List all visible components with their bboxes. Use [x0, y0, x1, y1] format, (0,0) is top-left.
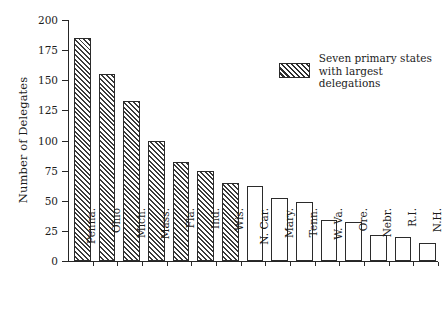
- x-axis-label: Nebr.: [382, 208, 393, 268]
- legend-label-line-2: with largest delegations: [319, 65, 447, 90]
- x-axis-label: Penna.: [86, 208, 97, 268]
- x-axis-label: Mich.: [136, 208, 147, 268]
- bar-chart: Number of Delegates 20017515012510075502…: [0, 0, 447, 324]
- y-tick-label-25: 25: [26, 226, 58, 236]
- legend-label: Seven primary states with largest delega…: [319, 52, 447, 90]
- x-axis-label: Mary.: [284, 208, 295, 268]
- x-axis-label: Tenn.: [308, 208, 319, 268]
- y-tick-label-100: 100: [26, 136, 58, 146]
- legend-swatch-hatched: [279, 63, 310, 78]
- y-tick-label-175: 175: [26, 45, 58, 55]
- x-axis-label: Wis.: [234, 208, 245, 268]
- x-axis-label: R.I.: [407, 208, 418, 268]
- x-axis-label: W. Va.: [333, 208, 344, 268]
- x-axis-label: Ore.: [358, 208, 369, 268]
- y-tick-label-50: 50: [26, 196, 58, 206]
- y-tick-label-150: 150: [26, 75, 58, 85]
- x-axis-label: Ohio: [111, 208, 122, 268]
- y-tick-label-200: 200: [26, 15, 58, 25]
- y-tick-label-125: 125: [26, 105, 58, 115]
- legend: Seven primary states with largest delega…: [279, 52, 447, 90]
- x-axis-label: Fla.: [185, 208, 196, 268]
- x-axis-label: N. Car.: [259, 208, 270, 268]
- x-axis-label: Mass.: [160, 208, 171, 268]
- y-tick-label-75: 75: [26, 166, 58, 176]
- x-axis-label: Ind.: [210, 208, 221, 268]
- y-tick-label-0: 0: [26, 256, 58, 266]
- legend-label-line-1: Seven primary states: [319, 52, 447, 65]
- x-axis-label: N.H.: [432, 208, 443, 268]
